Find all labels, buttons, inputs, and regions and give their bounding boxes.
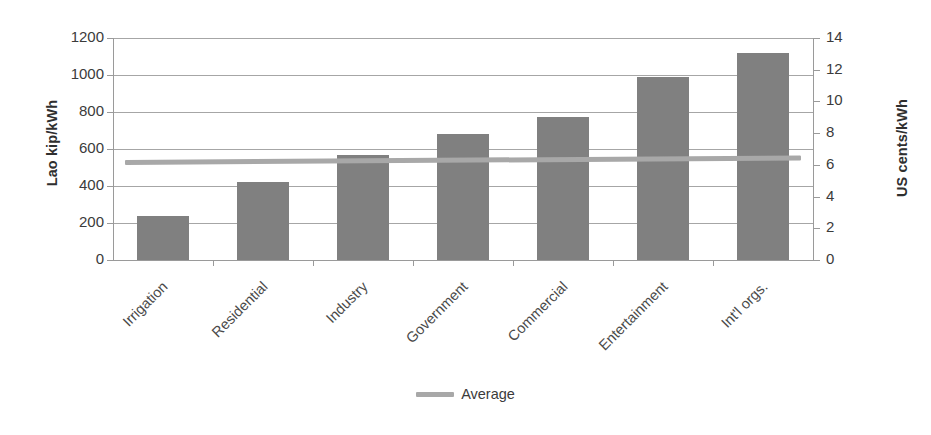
y-axis-left-tick-mark [107, 38, 113, 39]
y-axis-left-ticks: 020040060080010001200 [48, 38, 104, 260]
y-axis-right-title: US cents/kWh [894, 68, 910, 228]
y-axis-left-tick-mark [107, 186, 113, 187]
y-axis-right-tick-label: 4 [826, 187, 866, 204]
y-axis-right-tick-mark [814, 101, 820, 102]
x-axis-category-label: Commercial [453, 278, 570, 395]
y-axis-right-tick-label: 2 [826, 218, 866, 235]
legend-line-swatch-average [416, 392, 454, 397]
y-axis-right-tick-mark [814, 260, 820, 261]
bar [137, 216, 189, 260]
y-axis-left-tick-mark [107, 223, 113, 224]
x-axis-tick-mark [413, 260, 414, 266]
y-axis-right-tick-label: 0 [826, 250, 866, 267]
y-axis-right-tick-mark [814, 228, 820, 229]
y-axis-right-tick-label: 14 [826, 28, 866, 45]
y-axis-right-tick-mark [814, 165, 820, 166]
x-axis-category-label: Industry [253, 278, 370, 395]
x-axis-tick-mark [313, 260, 314, 266]
y-axis-left-tick-mark [107, 149, 113, 150]
y-axis-left-tick-mark [107, 112, 113, 113]
y-axis-left-tick-label: 0 [52, 250, 104, 267]
y-axis-right-tick-label: 6 [826, 155, 866, 172]
x-axis-tick-mark [213, 260, 214, 266]
y-axis-right-tick-mark [814, 70, 820, 71]
y-axis-right-tick-mark [814, 133, 820, 134]
x-axis-category-label: Entertainment [553, 278, 670, 395]
bar [237, 182, 289, 260]
x-axis-category-label: Government [353, 278, 470, 395]
y-axis-right-ticks: 02468101214 [826, 38, 870, 260]
chart-legend: Average [0, 386, 931, 402]
y-axis-left-tick-mark [107, 260, 113, 261]
bar [637, 77, 689, 260]
y-axis-left-tick-label: 200 [52, 213, 104, 230]
y-axis-right-tick-label: 8 [826, 123, 866, 140]
x-axis-line [113, 260, 814, 261]
x-axis-category-label: Residential [153, 278, 270, 395]
y-axis-right-tick-label: 10 [826, 91, 866, 108]
chart-container: Lao kip/kWh US cents/kWh 020040060080010… [0, 0, 931, 435]
y-axis-right-tick-label: 12 [826, 60, 866, 77]
y-axis-right-tick-mark [814, 38, 820, 39]
bar [337, 155, 389, 260]
bar [437, 134, 489, 260]
x-axis-tick-mark [513, 260, 514, 266]
bar-series [113, 38, 813, 260]
y-axis-left-tick-label: 800 [52, 102, 104, 119]
x-axis-tick-mark [613, 260, 614, 266]
legend-label-average: Average [461, 386, 515, 402]
y-axis-left-tick-label: 600 [52, 139, 104, 156]
y-axis-left-tick-mark [107, 75, 113, 76]
x-axis-category-label: Int'l orgs. [653, 278, 770, 395]
y-axis-left-tick-label: 1000 [52, 65, 104, 82]
y-axis-left-tick-label: 1200 [52, 28, 104, 45]
y-axis-right-tick-mark [814, 197, 820, 198]
y-axis-left-tick-label: 400 [52, 176, 104, 193]
x-axis-tick-mark [713, 260, 714, 266]
x-axis-category-label: Irrigation [53, 278, 170, 395]
bar [537, 117, 589, 260]
